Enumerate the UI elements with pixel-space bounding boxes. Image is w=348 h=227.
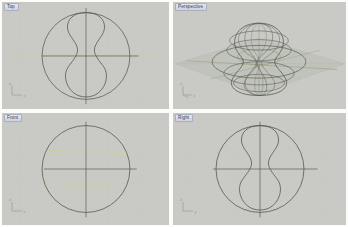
viewport-grid: Top x y <box>0 0 348 227</box>
right-gizmo-z-label: z <box>180 198 182 202</box>
viewport-front-label[interactable]: Front <box>4 114 22 122</box>
viewport-right-axis-gizmo: y z <box>180 198 202 216</box>
viewport-right-label[interactable]: Right <box>175 114 193 122</box>
viewport-front[interactable]: Front x z <box>0 111 171 227</box>
top-gizmo-y-label: y <box>9 82 11 86</box>
right-gizmo-svg: y z <box>180 198 202 216</box>
viewport-right[interactable]: Right y z <box>171 111 348 227</box>
viewport-top[interactable]: Top x y <box>0 0 171 111</box>
persp-gizmo-x-label: x <box>194 94 196 98</box>
viewport-top-label[interactable]: Top <box>4 3 19 11</box>
viewport-perspective[interactable]: Perspective x z <box>171 0 348 111</box>
front-gizmo-svg: x z <box>9 198 31 216</box>
front-gizmo-x-label: x <box>24 210 26 214</box>
viewport-front-axis-gizmo: x z <box>9 198 31 216</box>
viewport-top-axis-gizmo: x y <box>9 82 31 100</box>
persp-gizmo-z-label: z <box>180 82 182 86</box>
viewport-perspective-label[interactable]: Perspective <box>175 3 207 11</box>
persp-gizmo-svg: x z <box>180 82 202 100</box>
top-gizmo-x-label: x <box>24 94 26 98</box>
front-gizmo-z-label: z <box>9 198 11 202</box>
viewport-perspective-axis-gizmo: x z <box>180 82 202 100</box>
application-window: Top x y <box>0 0 348 227</box>
right-gizmo-y-label: y <box>195 210 197 214</box>
top-gizmo-svg: x y <box>9 82 31 100</box>
